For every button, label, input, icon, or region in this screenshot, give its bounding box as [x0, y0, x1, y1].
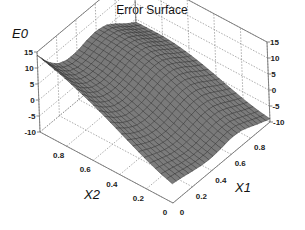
axis-edge [267, 42, 270, 122]
error-surface-chart: Error Surface -10-10-5-500551010151500.2… [0, 0, 305, 230]
x1-axis-label: X1 [234, 180, 251, 195]
x1-tick: 0.4 [215, 176, 227, 185]
x1-tick: 0.2 [196, 192, 208, 201]
z-tick-left: 0 [30, 96, 35, 105]
z-tick-left: -10 [24, 128, 36, 137]
x1-tick: 0.8 [254, 143, 266, 152]
z-tick-right: 15 [270, 38, 279, 47]
z-tick-left: 5 [30, 80, 35, 89]
z-tick-left: -5 [28, 112, 36, 121]
x1-tick: 0 [180, 208, 185, 217]
wall-gridline [56, 36, 59, 116]
x2-axis-label: X2 [83, 187, 101, 202]
z-tick-right: 0 [272, 86, 277, 95]
z-tick-right: 5 [271, 70, 276, 79]
z-tick-right: -10 [273, 118, 285, 127]
z-tick-left: 10 [25, 64, 34, 73]
x2-tick: 0 [163, 208, 168, 217]
x2-tick: 0.4 [106, 180, 118, 189]
wall-gridline [240, 28, 243, 108]
z-tick-right: -5 [272, 102, 280, 111]
x1-tick: 0.6 [235, 159, 247, 168]
z-tick-right: 10 [271, 54, 280, 63]
x2-tick: 0.6 [80, 165, 92, 174]
axis-edge [37, 52, 40, 132]
z-axis-label: E0 [12, 26, 29, 41]
x2-tick: 0.8 [53, 151, 65, 160]
x2-tick: 0.2 [133, 194, 145, 203]
z-tick-left: 15 [24, 48, 33, 57]
